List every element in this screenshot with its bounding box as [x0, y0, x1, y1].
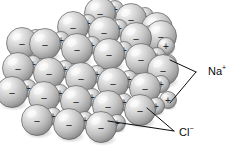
minus-charge-icon: − — [42, 39, 48, 51]
minus-charge-icon: − — [9, 87, 15, 99]
ion-text-label-group: Na+Cl− — [179, 64, 226, 138]
minus-charge-icon: − — [110, 78, 116, 90]
minus-charge-icon: − — [70, 22, 76, 34]
chloride-ion-sphere: − — [54, 109, 86, 143]
minus-charge-icon: − — [34, 115, 40, 127]
minus-charge-icon: − — [98, 122, 104, 134]
sodium-ion-label-symbol: Na — [208, 65, 223, 77]
minus-charge-icon: − — [133, 33, 139, 45]
minus-charge-icon: − — [142, 83, 148, 95]
nacl-lattice-figure: +−+−+−+−−+−+−+−−++−+−+−++−+−−+−+−++−−+−+… — [0, 0, 245, 161]
minus-charge-icon: − — [137, 105, 143, 117]
minus-charge-icon: − — [160, 65, 166, 77]
minus-charge-icon: − — [101, 27, 107, 39]
minus-charge-icon: − — [46, 68, 52, 80]
minus-charge-icon: − — [138, 54, 144, 66]
lattice-canvas: +−+−+−+−−+−+−+−−++−+−+−++−+−−+−+−++−−+−+… — [0, 0, 245, 161]
chloride-ion-label-symbol: Cl — [179, 126, 189, 138]
minus-charge-icon: − — [106, 49, 112, 61]
minus-charge-icon: − — [15, 63, 21, 75]
minus-charge-icon: − — [78, 73, 84, 85]
minus-charge-icon: − — [41, 92, 47, 104]
chloride-ion-label-charge-superscript: − — [189, 125, 193, 132]
minus-charge-icon: − — [66, 119, 72, 131]
ion-sphere-group: +−+−+−+−−+−+−+−−++−+−+−++−+−−+−+−++−−+−+… — [0, 0, 179, 146]
sodium-ion-label: Na+ — [208, 64, 226, 77]
minus-charge-icon: − — [19, 38, 25, 50]
plus-charge-icon: + — [163, 41, 169, 52]
plus-charge-icon: + — [165, 95, 171, 106]
minus-charge-icon: − — [74, 44, 80, 56]
chloride-ion-sphere: − — [0, 77, 28, 111]
chloride-ion-sphere: − — [86, 112, 118, 146]
minus-charge-icon: − — [73, 96, 79, 108]
chloride-ion-sphere: − — [22, 105, 54, 139]
chloride-ion-label: Cl− — [179, 125, 193, 138]
sodium-ion-label-charge-superscript: + — [222, 64, 226, 71]
minus-charge-icon: − — [105, 101, 111, 113]
